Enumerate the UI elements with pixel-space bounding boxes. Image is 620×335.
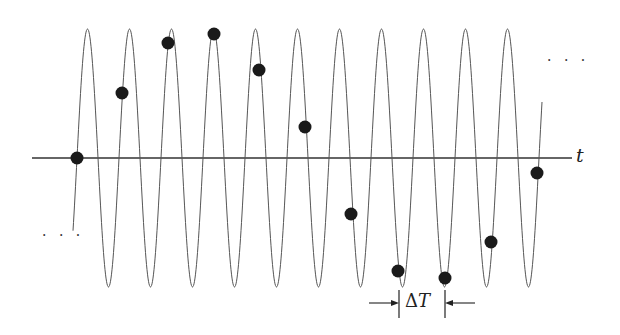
- delta-t-label: ΔT: [405, 290, 430, 311]
- sample-dot: [208, 28, 221, 41]
- sample-dot: [345, 208, 358, 221]
- sample-dot: [392, 265, 405, 278]
- sample-points: [71, 28, 544, 285]
- continuation-dots-right: · · ·: [547, 52, 589, 68]
- delta-symbol: Δ: [405, 290, 418, 311]
- sample-dot: [439, 272, 452, 285]
- sample-dot: [71, 152, 84, 165]
- continuation-dots-left: · · ·: [42, 227, 84, 243]
- arrowhead-right-icon: [391, 300, 399, 306]
- sample-dot: [485, 236, 498, 249]
- sample-dot: [116, 87, 129, 100]
- sample-dot: [299, 121, 312, 134]
- axis-label-t: t: [576, 144, 584, 166]
- arrowhead-left-icon: [445, 300, 453, 306]
- sample-dot: [162, 37, 175, 50]
- sample-dot: [253, 64, 266, 77]
- period-variable: T: [418, 290, 430, 311]
- sampling-diagram: [0, 0, 620, 335]
- sample-dot: [531, 167, 544, 180]
